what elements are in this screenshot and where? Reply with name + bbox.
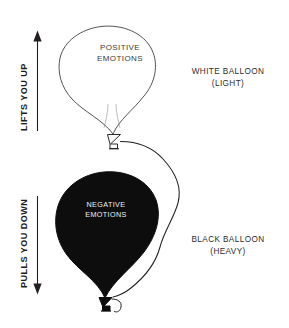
pulls-you-down-caption: PULLS YOU DOWN — [19, 199, 29, 288]
white-balloon-caption-line-2: (LIGHT) — [170, 78, 286, 90]
positive-line-1: POSITIVE — [100, 43, 140, 52]
black-balloon-caption-line-1: BLACK BALLOON — [191, 235, 264, 244]
white-balloon-caption: WHITE BALLOON (LIGHT) — [170, 66, 286, 89]
arrow-up-icon — [33, 31, 41, 132]
arrow-down-icon — [33, 196, 41, 295]
black-balloon — [56, 172, 159, 312]
white-balloon-inner-text: POSITIVE EMOTIONS — [74, 42, 166, 65]
white-balloon-knot — [108, 135, 121, 149]
negative-line-2: EMOTIONS — [60, 210, 152, 220]
black-balloon-knot — [99, 298, 112, 312]
negative-line-1: NEGATIVE — [86, 200, 125, 209]
black-balloon-caption-line-2: (HEAVY) — [170, 246, 286, 258]
lifts-you-up-caption: LIFTS YOU UP — [19, 63, 29, 131]
positive-line-2: EMOTIONS — [74, 53, 166, 64]
black-balloon-inner-text: NEGATIVE EMOTIONS — [60, 200, 152, 220]
diagram-canvas: LIFTS YOU UP PULLS YOU DOWN POSITIVE EMO… — [0, 0, 289, 328]
black-balloon-body — [56, 172, 159, 298]
white-balloon-caption-line-1: WHITE BALLOON — [192, 67, 265, 76]
black-balloon-caption: BLACK BALLOON (HEAVY) — [170, 234, 286, 257]
